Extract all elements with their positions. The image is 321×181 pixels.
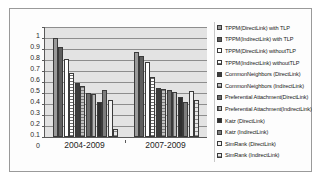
legend-label: Preferential Attachment(DirectLink) (225, 94, 308, 100)
bar[interactable] (69, 73, 74, 137)
legend-swatch-icon (217, 37, 222, 42)
bar[interactable] (167, 90, 172, 137)
y-axis-tick-label: 0.4 (30, 98, 40, 105)
y-axis-tick-label: 0 (36, 142, 40, 149)
bar[interactable] (145, 62, 150, 137)
y-axis-tick-label: 1 (36, 32, 40, 39)
bar[interactable] (183, 102, 188, 137)
legend-swatch-icon (217, 153, 222, 158)
legend-item[interactable]: TPPM(DirectLink) withoutTLP (217, 45, 318, 57)
y-axis-tick-label: 0.2 (30, 120, 40, 127)
legend-swatch-icon (217, 130, 222, 135)
legend-label: CommonNeighbors (IndirectLink) (225, 83, 304, 89)
bar[interactable] (75, 83, 80, 137)
legend-item[interactable]: TPPM(IndirectLink) withoutTLP (217, 57, 318, 69)
y-axis-tick-label: 0.1 (30, 131, 40, 138)
legend-item[interactable]: Preferential Attachment(DirectLink) (217, 92, 318, 104)
bar[interactable] (178, 97, 183, 137)
legend-label: SimRank (IndirectLink) (225, 152, 279, 158)
y-axis-tick-label: 0.6 (30, 76, 40, 83)
bar[interactable] (86, 93, 91, 137)
legend-label: TPPM(IndirectLink) with TLP (225, 36, 293, 42)
bar[interactable] (64, 59, 69, 137)
y-axis-tick-label: 0.9 (30, 43, 40, 50)
bar[interactable] (91, 94, 96, 137)
legend-swatch-icon (217, 95, 222, 100)
y-axis-tick-label: 0.7 (30, 65, 40, 72)
bar[interactable] (172, 92, 177, 137)
legend-swatch-icon (217, 141, 222, 146)
y-axis-tick-label: 0.3 (30, 109, 40, 116)
bar[interactable] (161, 89, 166, 137)
legend-item[interactable]: Preferential Attachment(IndirectLink) (217, 103, 318, 115)
legend-swatch-icon (217, 118, 222, 123)
legend-item[interactable]: SimRank (DirectLink) (217, 138, 318, 150)
legend-label: TPPM(DirectLink) withoutTLP (225, 48, 296, 54)
bar-series-container (45, 27, 207, 137)
y-axis: 10.90.80.70.60.50.40.30.20.10 (22, 27, 42, 137)
y-axis-tick-mark (42, 137, 45, 138)
y-axis-tick-label: 0.8 (30, 54, 40, 61)
legend-swatch-icon (217, 72, 222, 77)
legend-item[interactable]: Katz (DirectLink) (217, 115, 318, 127)
x-axis-tick-label: 2004-2009 (44, 140, 125, 150)
legend-swatch-icon (217, 25, 222, 30)
bar[interactable] (80, 86, 85, 137)
bar[interactable] (189, 91, 194, 137)
x-axis: 2004-20092007-2009 (44, 140, 206, 150)
bar[interactable] (139, 56, 144, 137)
legend-label: TPPM(DirectLink) with TLP (225, 25, 290, 31)
bar[interactable] (134, 52, 139, 137)
chart-frame: 10.90.80.70.60.50.40.30.20.10 2004-20092… (9, 8, 312, 172)
legend-label: TPPM(IndirectLink) withoutTLP (225, 60, 300, 66)
bar[interactable] (156, 88, 161, 138)
x-axis-tick-label: 2007-2009 (125, 140, 206, 150)
legend-item[interactable]: CommonNeighbors (IndirectLink) (217, 80, 318, 92)
plot-wrapper: 10.90.80.70.60.50.40.30.20.10 2004-20092… (22, 19, 212, 159)
legend-swatch-icon (217, 106, 222, 111)
legend-label: Katz (DirectLink) (225, 118, 265, 124)
legend-item[interactable]: TPPM(IndirectLink) with TLP (217, 34, 318, 46)
legend-swatch-icon (217, 48, 222, 53)
legend-label: CommonNeighbors (DirectLink) (225, 71, 301, 77)
bar[interactable] (102, 90, 107, 137)
legend: TPPM(DirectLink) with TLPTPPM(IndirectLi… (214, 22, 318, 162)
legend-item[interactable]: SimRank (IndirectLink) (217, 150, 318, 162)
bar-group (45, 27, 126, 137)
x-axis-tick-mark (125, 140, 126, 143)
plot-area (44, 27, 207, 138)
y-axis-tick-label: 0.5 (30, 87, 40, 94)
legend-item[interactable]: TPPM(DirectLink) with TLP (217, 22, 318, 34)
legend-swatch-icon (217, 60, 222, 65)
legend-item[interactable]: Katz (IndirectLink) (217, 126, 318, 138)
bar[interactable] (113, 129, 118, 137)
legend-item[interactable]: CommonNeighbors (DirectLink) (217, 68, 318, 80)
bar[interactable] (97, 102, 102, 137)
bar[interactable] (58, 47, 63, 137)
bar[interactable] (194, 100, 199, 137)
bar[interactable] (53, 38, 58, 137)
bar[interactable] (108, 100, 113, 137)
legend-swatch-icon (217, 83, 222, 88)
legend-label: Katz (IndirectLink) (225, 129, 268, 135)
legend-label: SimRank (DirectLink) (225, 141, 276, 147)
bar[interactable] (150, 77, 155, 138)
bar-group (126, 27, 207, 137)
legend-label: Preferential Attachment(IndirectLink) (225, 106, 312, 112)
